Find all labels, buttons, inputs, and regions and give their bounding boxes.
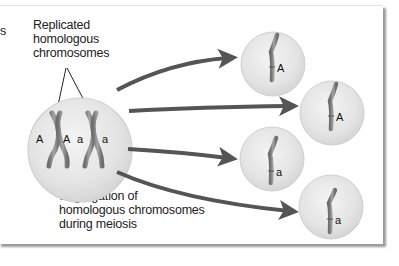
gamete-cell-2: A (300, 81, 364, 145)
meiosis-diagram: s Replicated homologous chromosomes Segr… (0, 0, 399, 266)
allele-label: A (277, 62, 285, 74)
arrow-icon (129, 106, 289, 111)
allele-label: A (336, 111, 344, 123)
gamete-cell-4: a (299, 175, 363, 239)
arrow-icon (117, 58, 228, 90)
parent-cell: A A a a (28, 98, 132, 202)
allele-label: A (36, 133, 44, 145)
allele-label: a (102, 133, 109, 145)
allele-label: A (63, 133, 71, 145)
arrow-icon (128, 149, 228, 158)
allele-label: a (276, 166, 283, 178)
gamete-cell-3: a (240, 127, 304, 191)
gamete-cell-1: A (241, 32, 305, 96)
allele-label: a (335, 214, 342, 226)
diagram-graphics: A A a a A A a (0, 0, 399, 266)
allele-label: a (77, 133, 84, 145)
